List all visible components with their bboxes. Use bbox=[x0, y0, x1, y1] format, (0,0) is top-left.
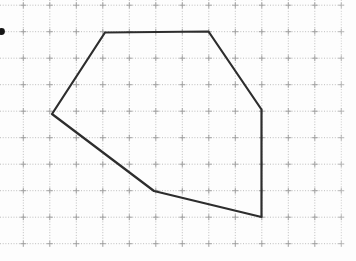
polygon-outline bbox=[52, 32, 262, 218]
worksheet-figure-page bbox=[0, 0, 356, 261]
list-bullet bbox=[0, 28, 5, 35]
grid-dots bbox=[0, 0, 345, 247]
dotted-grid-figure bbox=[0, 0, 356, 261]
